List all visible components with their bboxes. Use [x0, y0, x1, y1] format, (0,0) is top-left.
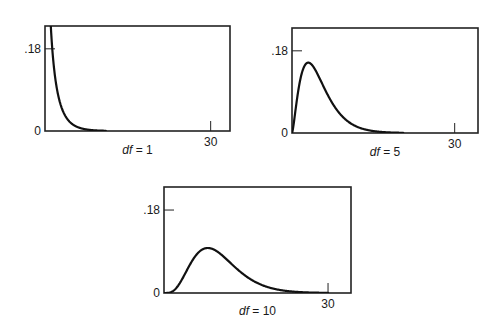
x-tick-label: 30 [204, 135, 218, 149]
chart-panel-df-1: 0.1830df = 1 [24, 6, 230, 157]
plot-frame [45, 26, 230, 131]
chart-panel-df-5: 0.1830df = 5 [271, 28, 478, 159]
density-curve-df-1 [45, 6, 106, 131]
y-tick-label: 0 [281, 126, 288, 140]
y-tick-label: .18 [24, 42, 41, 56]
caption-value: = 10 [249, 304, 276, 318]
density-curve-df-5 [292, 63, 403, 133]
y-tick-label: .18 [271, 44, 288, 58]
caption-value: = 5 [380, 145, 401, 159]
y-tick-label: .18 [143, 203, 160, 217]
y-tick-label: 0 [153, 286, 160, 300]
panel-caption: df = 10 [239, 304, 276, 318]
density-curve-df-10 [164, 248, 328, 293]
y-tick-label: 0 [34, 124, 41, 138]
chart-panel-df-10: 0.1830df = 10 [143, 187, 351, 318]
panel-caption: df = 5 [370, 145, 401, 159]
x-tick-label: 30 [321, 297, 335, 311]
panel-caption: df = 1 [122, 143, 153, 157]
plot-frame [164, 187, 351, 293]
x-tick-label: 30 [448, 137, 462, 151]
chi-square-figure: 0.1830df = 10.1830df = 50.1830df = 10 [0, 0, 500, 323]
caption-value: = 1 [132, 143, 153, 157]
